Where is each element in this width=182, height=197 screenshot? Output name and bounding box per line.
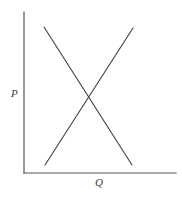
y-axis-label: P <box>11 88 18 99</box>
plot-area <box>0 0 182 197</box>
x-axis-label: Q <box>95 177 103 188</box>
demand-curve <box>44 27 132 165</box>
supply-demand-figure: P Q <box>0 0 182 197</box>
